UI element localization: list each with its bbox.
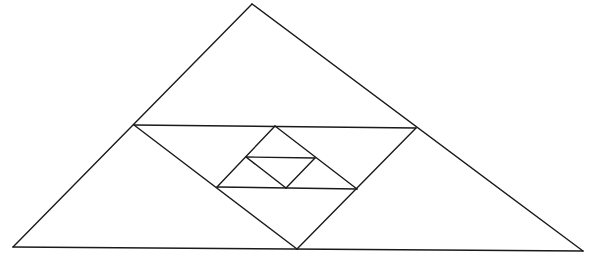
nested-triangles-diagram	[0, 0, 595, 267]
innermost-top-line	[246, 157, 315, 158]
medial-left-line	[134, 125, 297, 249]
diagram-canvas	[0, 0, 595, 267]
outer-right-side-line	[252, 4, 583, 251]
innermost-right-line	[286, 158, 315, 188]
innermost-left-line	[246, 157, 286, 188]
